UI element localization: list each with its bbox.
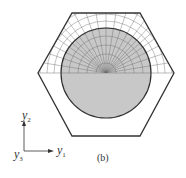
axis-label-y3: y3 (14, 147, 23, 163)
axis-label-y2: y2 (22, 108, 31, 124)
coordinate-axes (22, 120, 54, 153)
axis-y2-sub: 2 (27, 116, 31, 124)
figure-caption: (b) (97, 152, 109, 163)
axis-y3-sub: 3 (19, 155, 23, 163)
axis-y1-sub: 1 (62, 151, 66, 159)
axis-label-y1: y1 (57, 143, 66, 159)
diagram (0, 0, 186, 178)
